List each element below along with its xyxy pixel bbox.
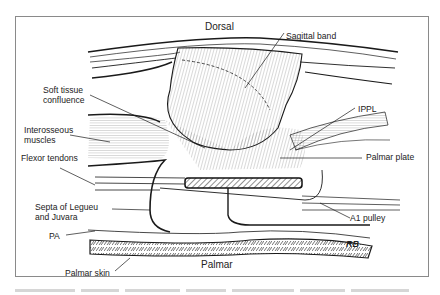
mcp-joint-anatomy-drawing bbox=[0, 0, 440, 295]
artist-initials: RB bbox=[346, 240, 359, 250]
palmar-skin-label: Palmar skin bbox=[65, 269, 110, 279]
palmar-plate-label: Palmar plate bbox=[366, 153, 414, 163]
orientation-palmar-text: Palmar bbox=[201, 260, 233, 270]
palmar-skin-layer bbox=[90, 239, 372, 258]
soft-tissue-confluence-label: Soft tissue confluence bbox=[43, 86, 85, 105]
pa-label: PA bbox=[49, 232, 60, 242]
ippl-label: IPPL bbox=[358, 105, 377, 115]
septa-label: Septa of Legueu and Juvara bbox=[35, 203, 98, 222]
palmar-plate bbox=[185, 178, 302, 188]
interosseous-muscles bbox=[88, 115, 169, 160]
interosseous-muscles-label: Interosseous muscles bbox=[24, 126, 73, 145]
caption-strip bbox=[15, 281, 429, 295]
sagittal-band-label: Sagittal band bbox=[286, 32, 336, 42]
palmar-aponeurosis bbox=[88, 230, 370, 238]
orientation-dorsal-label: Dorsal bbox=[205, 22, 234, 32]
flexor-tendons-label: Flexor tendons bbox=[21, 154, 78, 164]
ippl-ribbon bbox=[290, 112, 388, 150]
septa-of-legueu-and-juvara bbox=[228, 188, 370, 225]
a1-pulley-label: A1 pulley bbox=[350, 214, 385, 224]
